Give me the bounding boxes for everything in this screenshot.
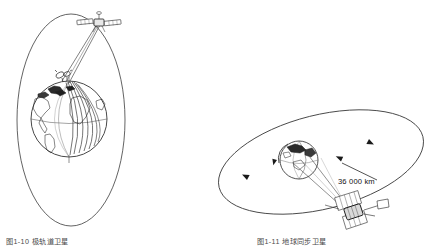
geostationary-orbit-ellipse	[217, 91, 434, 233]
figure-page: 图1-10 极轨道卫星	[0, 0, 434, 246]
communication-beam	[62, 24, 100, 83]
earth-globe	[271, 141, 318, 179]
figure-panel-geostationary-orbit: 36 000 km 图1-11 地球同步卫星	[217, 0, 434, 246]
figure-caption-left: 图1-10 极轨道卫星	[6, 238, 69, 246]
polar-orbit-diagram	[0, 0, 217, 246]
satellite-icon	[325, 190, 389, 229]
geostationary-orbit-diagram	[217, 0, 434, 246]
earth-globe	[31, 76, 107, 163]
figure-panel-polar-orbit: 图1-10 极轨道卫星	[0, 0, 217, 246]
figure-caption-right: 图1-11 地球同步卫星	[257, 238, 327, 246]
altitude-label: 36 000 km	[338, 177, 375, 186]
